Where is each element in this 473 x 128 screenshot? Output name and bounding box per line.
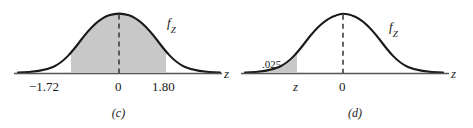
- tick-label-lower: −1.72: [29, 80, 59, 93]
- density-label-subscript-d: Z: [393, 29, 398, 39]
- density-function-label-c: fZ: [167, 16, 176, 33]
- tick-label-center-d: 0: [339, 80, 346, 93]
- tail-area-label: .025: [262, 59, 281, 70]
- density-function-label-d: fZ: [389, 20, 398, 37]
- x-axis-label-c: z: [224, 67, 229, 80]
- panel-c: −1.72 0 1.80 z fZ (c): [0, 0, 237, 128]
- panel-d: .025 z 0 z fZ (d): [237, 0, 473, 128]
- panel-caption-d: (d): [237, 106, 473, 121]
- panel-caption-c: (c): [0, 106, 237, 121]
- normal-distribution-figure: −1.72 0 1.80 z fZ (c) .025: [0, 0, 473, 128]
- density-label-subscript: Z: [171, 25, 176, 35]
- x-axis-label-d: z: [451, 67, 456, 80]
- tick-label-upper: 1.80: [152, 80, 175, 93]
- tick-label-center: 0: [115, 80, 122, 93]
- tick-label-z-critical: z: [293, 80, 298, 93]
